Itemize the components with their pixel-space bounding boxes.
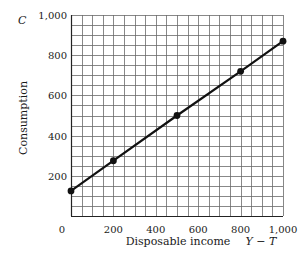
x-tick-label: 600 — [189, 224, 208, 235]
x-tick-label: 400 — [146, 224, 165, 235]
y-axis-symbol: C — [18, 14, 27, 27]
consumption-chart: 02004006008001,0002004006008001,000 C Co… — [0, 0, 307, 261]
x-tick-label: 200 — [104, 224, 123, 235]
y-tick-label: 600 — [48, 90, 67, 101]
data-point — [280, 38, 287, 45]
x-tick-label: 800 — [231, 224, 250, 235]
x-axis-label: Disposable income — [126, 235, 231, 248]
data-series — [68, 38, 287, 195]
y-tick-label: 800 — [48, 50, 67, 61]
data-point — [110, 157, 117, 164]
data-point — [68, 187, 75, 194]
y-tick-label: 200 — [48, 171, 67, 182]
x-tick-label: 0 — [59, 224, 65, 235]
x-axis-symbol: Y − T — [246, 235, 278, 248]
y-tick-label: 400 — [48, 131, 67, 142]
data-point — [237, 68, 244, 75]
data-point — [174, 112, 181, 119]
x-tick-label: 1,000 — [269, 224, 298, 235]
y-tick-label: 1,000 — [38, 10, 67, 21]
y-axis-label: Consumption — [17, 81, 30, 155]
